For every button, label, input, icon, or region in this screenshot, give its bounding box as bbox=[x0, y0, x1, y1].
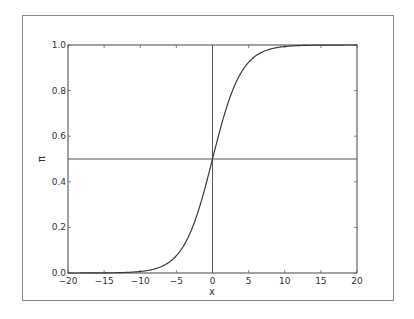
y-axis-label: π bbox=[36, 156, 47, 162]
y-tick-label: 0.8 bbox=[52, 86, 67, 96]
x-tick-label: −5 bbox=[170, 276, 183, 286]
x-tick-label: 15 bbox=[315, 276, 326, 286]
y-tick-label: 0.2 bbox=[52, 222, 66, 232]
x-tick-label: 0 bbox=[210, 276, 216, 286]
y-tick-label: 0.4 bbox=[52, 177, 67, 187]
y-tick-label: 0.6 bbox=[52, 131, 67, 141]
chart-plot: −20−15−10−505101520 0.00.20.40.60.81.0 x… bbox=[0, 0, 414, 319]
y-tick-label: 1.0 bbox=[52, 40, 67, 50]
x-tick-label: 20 bbox=[351, 276, 363, 286]
y-tick-label: 0.0 bbox=[52, 268, 67, 278]
x-axis-label: x bbox=[209, 286, 215, 297]
y-tick-labels: 0.00.20.40.60.81.0 bbox=[52, 40, 67, 278]
x-tick-label: 10 bbox=[279, 276, 291, 286]
x-tick-label: 5 bbox=[246, 276, 252, 286]
x-tick-labels: −20−15−10−505101520 bbox=[59, 276, 363, 286]
x-tick-label: −15 bbox=[95, 276, 114, 286]
x-tick-label: −10 bbox=[131, 276, 150, 286]
